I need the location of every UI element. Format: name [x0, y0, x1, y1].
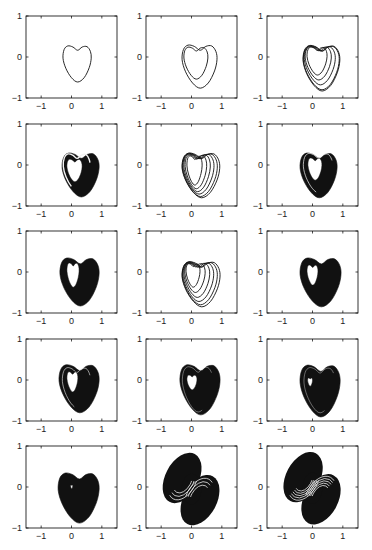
- phase-portrait-figure: −101−101−101−101−101−101−101−101−101−101…: [0, 0, 372, 550]
- y-tick-label: 0: [17, 267, 22, 277]
- x-tick-label: −1: [36, 101, 46, 111]
- y-tick-label: 1: [137, 119, 142, 129]
- x-tick-label: −1: [36, 424, 46, 434]
- y-tick-label: 1: [137, 226, 142, 236]
- y-tick-label: 0: [137, 267, 142, 277]
- phase-plot-panel-9: −101−101: [253, 226, 358, 326]
- y-tick-label: 1: [17, 119, 22, 129]
- x-tick-label: 1: [219, 424, 224, 434]
- x-tick-label: 1: [340, 531, 345, 541]
- x-tick-label: 1: [219, 101, 224, 111]
- x-tick-label: 1: [99, 531, 104, 541]
- phase-plot-panel-10: −101−101: [12, 334, 117, 434]
- x-tick-label: −1: [277, 101, 287, 111]
- y-tick-label: 1: [137, 441, 142, 451]
- x-tick-label: 0: [69, 424, 74, 434]
- x-tick-label: −1: [156, 209, 166, 219]
- y-tick-label: −1: [132, 416, 142, 426]
- y-tick-label: 1: [258, 119, 263, 129]
- y-tick-label: −1: [253, 201, 263, 211]
- y-tick-label: −1: [12, 308, 22, 318]
- y-tick-label: −1: [253, 523, 263, 533]
- y-tick-label: 0: [137, 52, 142, 62]
- x-tick-label: −1: [156, 316, 166, 326]
- x-tick-label: −1: [36, 209, 46, 219]
- x-tick-label: 0: [189, 209, 194, 219]
- y-tick-label: 1: [258, 441, 263, 451]
- y-tick-label: 1: [258, 226, 263, 236]
- x-tick-label: 1: [340, 209, 345, 219]
- phase-plot-panel-5: −101−101: [132, 119, 237, 219]
- y-tick-label: 1: [137, 11, 142, 21]
- y-tick-label: −1: [253, 308, 263, 318]
- x-tick-label: −1: [277, 209, 287, 219]
- y-tick-label: −1: [132, 308, 142, 318]
- y-tick-label: 0: [258, 160, 263, 170]
- y-tick-label: 0: [258, 375, 263, 385]
- y-tick-label: 0: [17, 160, 22, 170]
- x-tick-label: −1: [277, 316, 287, 326]
- y-tick-label: 0: [17, 375, 22, 385]
- y-tick-label: 0: [137, 482, 142, 492]
- phase-plot-panel-6: −101−101: [253, 119, 358, 219]
- x-tick-label: −1: [156, 531, 166, 541]
- y-tick-label: 1: [137, 334, 142, 344]
- x-tick-label: 1: [99, 424, 104, 434]
- y-tick-label: 1: [17, 334, 22, 344]
- x-tick-label: −1: [156, 101, 166, 111]
- x-tick-label: −1: [277, 531, 287, 541]
- y-tick-label: 0: [17, 52, 22, 62]
- x-tick-label: 1: [219, 531, 224, 541]
- phase-plot-panel-3: −101−101: [253, 11, 358, 111]
- y-tick-label: −1: [12, 416, 22, 426]
- y-tick-label: 1: [17, 441, 22, 451]
- x-tick-label: 0: [310, 316, 315, 326]
- panel-grid: −101−101−101−101−101−101−101−101−101−101…: [12, 11, 358, 541]
- phase-plot-panel-15: −101−101: [253, 441, 358, 541]
- y-tick-label: 1: [17, 11, 22, 21]
- y-tick-label: −1: [132, 201, 142, 211]
- phase-plot-panel-7: −101−101: [12, 226, 117, 326]
- y-tick-label: −1: [253, 93, 263, 103]
- x-tick-label: −1: [277, 424, 287, 434]
- x-tick-label: 1: [99, 101, 104, 111]
- x-tick-label: 0: [69, 209, 74, 219]
- y-tick-label: 0: [258, 52, 263, 62]
- axes-frame: [146, 124, 237, 206]
- y-tick-label: −1: [12, 201, 22, 211]
- y-tick-label: −1: [132, 93, 142, 103]
- x-tick-label: 0: [310, 209, 315, 219]
- attractor-hole: [71, 485, 73, 489]
- y-tick-label: 0: [137, 160, 142, 170]
- y-tick-label: −1: [12, 523, 22, 533]
- phase-plot-panel-12: −101−101: [253, 334, 358, 434]
- phase-plot-panel-2: −101−101: [132, 11, 237, 111]
- x-tick-label: 0: [310, 531, 315, 541]
- x-tick-label: −1: [36, 316, 46, 326]
- x-tick-label: 0: [189, 316, 194, 326]
- x-tick-label: 0: [189, 424, 194, 434]
- y-tick-label: 0: [258, 267, 263, 277]
- axes-frame: [146, 231, 237, 313]
- phase-plot-panel-11: −101−101: [132, 334, 237, 434]
- phase-plot-panel-8: −101−101: [132, 226, 237, 326]
- x-tick-label: 0: [189, 101, 194, 111]
- scroll-lobe: [182, 473, 201, 504]
- y-tick-label: 1: [258, 11, 263, 21]
- x-tick-label: 0: [310, 424, 315, 434]
- x-tick-label: 0: [69, 531, 74, 541]
- y-tick-label: −1: [12, 93, 22, 103]
- phase-plot-panel-14: −101−101: [132, 441, 237, 541]
- y-tick-label: 0: [17, 482, 22, 492]
- x-tick-label: 1: [340, 316, 345, 326]
- x-tick-label: −1: [36, 531, 46, 541]
- phase-plot-panel-4: −101−101: [12, 119, 117, 219]
- x-tick-label: −1: [156, 424, 166, 434]
- axes-frame: [26, 16, 117, 98]
- x-tick-label: 1: [99, 209, 104, 219]
- x-tick-label: 0: [189, 531, 194, 541]
- y-tick-label: 0: [258, 482, 263, 492]
- x-tick-label: 0: [69, 316, 74, 326]
- x-tick-label: 0: [310, 101, 315, 111]
- y-tick-label: 0: [137, 375, 142, 385]
